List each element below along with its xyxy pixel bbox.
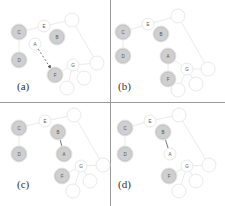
graph-node-t2 bbox=[96, 158, 110, 172]
graph-node-g: G bbox=[67, 59, 79, 71]
svg-text:E: E bbox=[42, 24, 45, 29]
graph-node-f: F bbox=[54, 168, 71, 185]
graph-node-e: E bbox=[39, 115, 51, 127]
panel-a: CDEBAFG (a) bbox=[0, 0, 112, 103]
graph-node-c: C bbox=[11, 120, 28, 137]
svg-text:F: F bbox=[61, 174, 64, 179]
graph-node-d: D bbox=[11, 146, 28, 163]
graph-edge bbox=[174, 60, 182, 66]
graph-edge bbox=[190, 74, 192, 78]
panel-c: CDEBAFG (c) bbox=[0, 103, 112, 206]
svg-text:F: F bbox=[54, 73, 57, 78]
graph-node-g: G bbox=[75, 160, 87, 172]
graph-node-t4 bbox=[172, 184, 186, 198]
panel-d: CDEBAFG (d) bbox=[112, 103, 224, 206]
graph-node-e: E bbox=[38, 20, 50, 32]
svg-text:E: E bbox=[146, 22, 149, 27]
graph-edge bbox=[69, 71, 72, 81]
graph-node-t3 bbox=[189, 77, 203, 91]
graph-edge bbox=[79, 64, 90, 65]
graph-edge bbox=[76, 26, 94, 57]
graph-node-t4 bbox=[171, 83, 185, 97]
svg-text:A: A bbox=[62, 152, 65, 157]
graph-edge bbox=[75, 172, 79, 185]
graph-node-d: D bbox=[117, 146, 134, 163]
graph-node-b: B bbox=[49, 29, 66, 46]
svg-text:B: B bbox=[161, 130, 164, 135]
svg-text:G: G bbox=[185, 67, 189, 72]
graph-edge bbox=[181, 75, 185, 84]
svg-text:B: B bbox=[159, 32, 162, 37]
graph-node-g: G bbox=[181, 63, 193, 75]
graph-d: CDEBAFG bbox=[112, 103, 224, 206]
svg-text:A: A bbox=[168, 152, 171, 157]
graph-node-c: C bbox=[117, 120, 134, 137]
svg-text:B: B bbox=[55, 35, 58, 40]
graph-node-a: A bbox=[164, 148, 176, 160]
svg-text:G: G bbox=[71, 63, 75, 68]
graph-edge bbox=[84, 171, 86, 175]
graph-node-b: B bbox=[155, 124, 172, 141]
panel-label-a: (a) bbox=[17, 80, 29, 92]
svg-text:B: B bbox=[56, 130, 59, 135]
svg-text:E: E bbox=[148, 119, 151, 124]
graph-node-t2 bbox=[90, 56, 104, 70]
svg-text:G: G bbox=[79, 164, 83, 169]
graph-edge bbox=[130, 26, 143, 30]
graph-edge bbox=[190, 171, 192, 175]
graph-node-d: D bbox=[11, 52, 28, 69]
graph-node-t1 bbox=[67, 108, 81, 122]
graph-edge bbox=[132, 123, 144, 126]
graph-node-t3 bbox=[77, 71, 91, 85]
graph-node-a: A bbox=[56, 146, 73, 163]
graph-node-t4 bbox=[60, 81, 74, 95]
graph-node-d: D bbox=[115, 48, 132, 65]
graph-node-t2 bbox=[202, 158, 216, 172]
svg-text:E: E bbox=[43, 119, 46, 124]
graph-node-e: E bbox=[142, 18, 154, 30]
graph-edge bbox=[154, 18, 171, 23]
svg-text:A: A bbox=[166, 54, 169, 59]
graph-node-e: E bbox=[144, 115, 156, 127]
graph-node-a: A bbox=[160, 48, 177, 65]
graph-node-c: C bbox=[11, 24, 28, 41]
graph-edge bbox=[181, 172, 185, 185]
graph-edge bbox=[165, 139, 168, 149]
svg-text:A: A bbox=[33, 42, 36, 47]
graph-edge bbox=[78, 121, 100, 159]
graph-edge bbox=[77, 70, 80, 73]
panel-b: CDEBAFG (b) bbox=[112, 0, 224, 103]
graph-node-b: B bbox=[153, 26, 170, 43]
graph-node-t1 bbox=[171, 9, 185, 23]
graph-node-a: A bbox=[29, 38, 41, 50]
graph-edge bbox=[26, 123, 39, 127]
graph-node-t3 bbox=[189, 174, 203, 188]
graph-node-b: B bbox=[50, 124, 67, 141]
graph-edge bbox=[50, 21, 65, 24]
graph-edge bbox=[156, 116, 172, 119]
svg-text:F: F bbox=[167, 77, 170, 82]
svg-text:F: F bbox=[168, 174, 171, 179]
panel-label-b: (b) bbox=[118, 80, 131, 92]
graph-edge bbox=[183, 121, 206, 159]
graph-node-t3 bbox=[83, 174, 97, 188]
panel-label-d: (d) bbox=[118, 178, 131, 190]
panel-label-c: (c) bbox=[17, 178, 29, 190]
graph-node-g: G bbox=[181, 160, 193, 172]
svg-text:G: G bbox=[185, 164, 189, 169]
graph-c: CDEBAFG bbox=[0, 103, 112, 206]
graph-edge bbox=[38, 49, 50, 68]
graph-node-c: C bbox=[115, 24, 132, 41]
graph-node-t1 bbox=[172, 108, 186, 122]
graph-node-f: F bbox=[161, 168, 178, 185]
graph-edge bbox=[51, 116, 67, 119]
graph-node-f: F bbox=[47, 67, 64, 84]
graph-edge bbox=[26, 27, 38, 30]
graph-node-t2 bbox=[201, 62, 215, 76]
graph-node-t1 bbox=[65, 13, 79, 27]
graph-edge bbox=[181, 22, 204, 63]
graph-node-t4 bbox=[66, 184, 80, 198]
